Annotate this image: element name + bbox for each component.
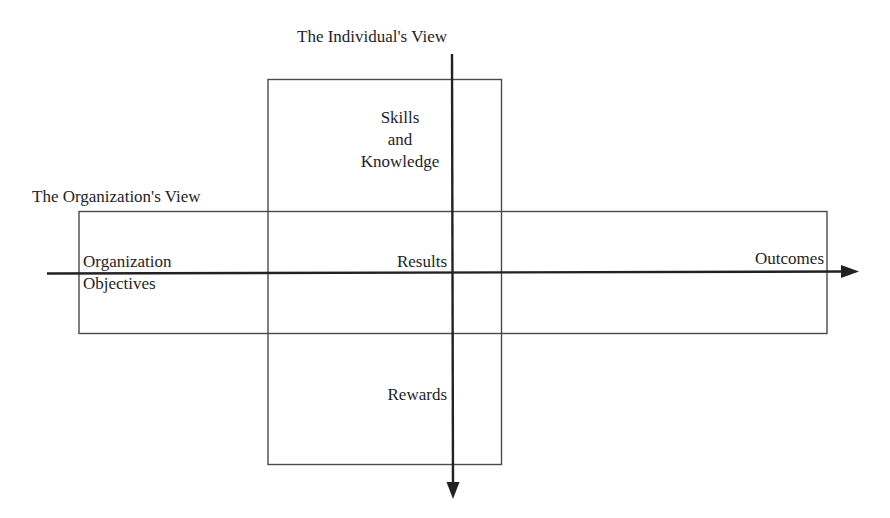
diagram-canvas: The Individual's View The Organization's…	[0, 0, 890, 518]
individual-view-title: The Individual's View	[297, 26, 447, 48]
organization-objectives-label: Organization Objectives	[83, 251, 171, 295]
vertical-axis-line	[452, 54, 453, 484]
outcomes-label: Outcomes	[720, 248, 824, 270]
organization-line: Organization	[83, 251, 171, 273]
knowledge-line: Knowledge	[350, 151, 450, 173]
skills-line: Skills	[350, 107, 450, 129]
and-line: and	[350, 129, 450, 151]
objectives-line: Objectives	[83, 273, 171, 295]
right-arrowhead-icon	[841, 265, 859, 278]
skills-knowledge-label: Skills and Knowledge	[350, 107, 450, 173]
results-label: Results	[360, 251, 447, 273]
down-arrowhead-icon	[447, 482, 460, 499]
rewards-label: Rewards	[360, 384, 447, 406]
organization-view-title: The Organization's View	[32, 186, 201, 208]
